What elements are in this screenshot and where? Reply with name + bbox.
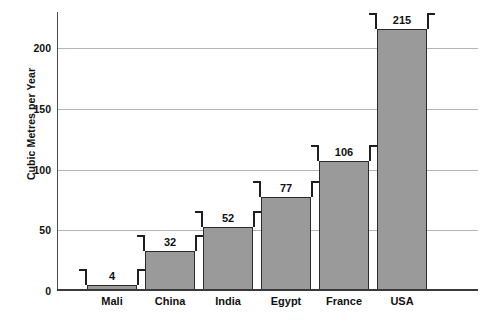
bracket-foot — [253, 211, 261, 213]
bracket-foot — [427, 13, 435, 15]
bar-value-label: 215 — [377, 14, 427, 26]
bracket-stem — [253, 211, 255, 227]
x-label-usa: USA — [371, 295, 433, 307]
y-axis-title: Cubic Metres per Year — [25, 44, 37, 204]
bracket-left — [311, 145, 319, 161]
bar-china[interactable] — [145, 251, 195, 290]
bracket-foot — [311, 181, 319, 183]
y-tick-label: 200 — [7, 42, 51, 54]
y-tick-label: 150 — [7, 103, 51, 115]
bracket-left — [369, 13, 377, 29]
bracket-stem — [427, 13, 429, 29]
bracket-stem — [137, 269, 139, 285]
y-tick-label: 50 — [7, 224, 51, 236]
x-label-egypt: Egypt — [255, 295, 317, 307]
bar-usa[interactable] — [377, 29, 427, 290]
bar-group[interactable]: 106 — [319, 127, 369, 290]
bracket-foot — [195, 211, 203, 213]
bracket-stem — [195, 235, 197, 251]
bar-chart: Cubic Metres per Year 050100150200 43252… — [0, 0, 491, 325]
bracket-left — [253, 181, 261, 197]
x-axis-line — [57, 289, 478, 291]
y-tick-label: 0 — [7, 285, 51, 297]
bar-group[interactable]: 32 — [145, 217, 195, 290]
bar-india[interactable] — [203, 227, 253, 290]
x-axis-category-labels: MaliChinaIndiaEgyptFranceUSA — [57, 295, 478, 317]
bar-group[interactable]: 4 — [87, 251, 137, 290]
bar-group[interactable]: 52 — [203, 193, 253, 290]
bracket-foot — [253, 181, 261, 183]
bracket-left — [195, 211, 203, 227]
bars-layer: 4325277106215 — [57, 12, 478, 291]
bracket-stem — [369, 145, 371, 161]
bracket-left — [79, 269, 87, 285]
bar-egypt[interactable] — [261, 197, 311, 290]
bar-value-label: 32 — [145, 236, 195, 248]
x-label-france: France — [313, 295, 375, 307]
bracket-right — [253, 211, 261, 227]
bracket-right — [311, 181, 319, 197]
bar-group[interactable]: 215 — [377, 0, 427, 290]
x-label-mali: Mali — [81, 295, 143, 307]
bracket-right — [369, 145, 377, 161]
bar-france[interactable] — [319, 161, 369, 290]
bar-group[interactable]: 77 — [261, 163, 311, 290]
bar-value-label: 106 — [319, 146, 369, 158]
bracket-foot — [311, 145, 319, 147]
bracket-foot — [369, 145, 377, 147]
bracket-foot — [137, 269, 145, 271]
bracket-left — [137, 235, 145, 251]
y-tick-label: 100 — [7, 164, 51, 176]
bar-value-label: 4 — [87, 270, 137, 282]
x-label-india: India — [197, 295, 259, 307]
bracket-foot — [369, 13, 377, 15]
bracket-right — [137, 269, 145, 285]
plot-area: 050100150200 4325277106215 — [57, 12, 478, 291]
bracket-foot — [137, 235, 145, 237]
x-label-china: China — [139, 295, 201, 307]
bracket-right — [427, 13, 435, 29]
bracket-foot — [195, 235, 203, 237]
bracket-right — [195, 235, 203, 251]
bar-value-label: 77 — [261, 182, 311, 194]
bracket-foot — [79, 269, 87, 271]
bar-value-label: 52 — [203, 212, 253, 224]
bracket-stem — [311, 181, 313, 197]
